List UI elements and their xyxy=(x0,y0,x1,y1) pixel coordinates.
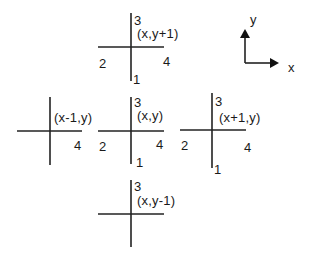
right-edge-2-label: 2 xyxy=(181,139,188,152)
top-cell-coord-label: (x,y+1) xyxy=(137,27,179,40)
bottom-cell-coord-label: (x,y-1) xyxy=(137,194,175,207)
right-edge-3-label: 3 xyxy=(215,95,222,108)
top-edge-2-label: 2 xyxy=(99,57,106,70)
center-cell-coord-label: (x,y) xyxy=(137,109,163,122)
left-cell-coord-label: (x-1,y) xyxy=(54,111,92,124)
center-edge-2-label: 2 xyxy=(99,140,106,153)
center-edge-1-label: 1 xyxy=(136,156,143,169)
center-edge-4-label: 4 xyxy=(156,138,163,151)
top-edge-4-label: 4 xyxy=(163,55,170,68)
right-cell-coord-label: (x+1,y) xyxy=(219,111,261,124)
bottom-edge-3-label: 3 xyxy=(134,180,141,193)
y-axis-arrowhead-icon xyxy=(240,29,250,38)
right-edge-1-label: 1 xyxy=(214,163,221,176)
right-edge-4-label: 4 xyxy=(244,141,251,154)
y-axis-label: y xyxy=(250,13,257,26)
top-edge-1-label: 1 xyxy=(133,73,140,86)
left-edge-4-label: 4 xyxy=(74,139,81,152)
x-axis-label: x xyxy=(288,61,295,74)
x-axis-arrowhead-icon xyxy=(270,58,279,68)
